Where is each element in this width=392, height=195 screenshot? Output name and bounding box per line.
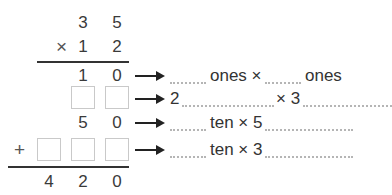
blank-answer-line[interactable] [303,105,392,107]
answer-box[interactable] [71,138,95,161]
blank-answer-line[interactable] [182,105,274,107]
partial-row3-tens-digit: 5 [73,113,93,133]
multiplicand-tens-digit: 3 [73,13,93,33]
blank-answer-line[interactable] [265,129,353,131]
answer-box[interactable] [71,86,95,109]
explanation-row2-text: × 3 [276,89,300,109]
partial-row1-ones-digit: 0 [107,66,127,86]
bottom-divider-line [8,166,129,168]
explanation-row1-text-a: ones × [210,66,262,86]
multiplier-ones-digit: 2 [107,37,127,57]
explanation-row3-text: ten × 5 [210,113,262,133]
plus-sign: + [14,140,25,160]
multiplier-tens-digit: 1 [73,37,93,57]
multiplicand-ones-digit: 5 [107,13,127,33]
arrow-right-icon [135,145,165,155]
sum-hundreds-digit: 4 [39,172,59,192]
sum-tens-digit: 2 [73,172,93,192]
blank-answer-line[interactable] [265,82,301,84]
answer-box[interactable] [105,86,129,109]
arrow-right-icon [135,118,165,128]
top-divider-line [37,61,129,63]
answer-box[interactable] [37,138,61,161]
arrow-right-icon [135,94,165,104]
blank-answer-line[interactable] [265,156,353,158]
blank-answer-line[interactable] [170,129,206,131]
partial-row1-tens-digit: 1 [73,66,93,86]
explanation-row4-text: ten × 3 [210,140,262,160]
answer-box[interactable] [105,138,129,161]
blank-answer-line[interactable] [170,82,206,84]
multiply-sign: × [56,37,67,57]
arrow-right-icon [135,71,165,81]
partial-row3-ones-digit: 0 [107,113,127,133]
sum-ones-digit: 0 [107,172,127,192]
explanation-row2-prefix: 2 [170,89,179,109]
explanation-row1-text-b: ones [305,66,342,86]
blank-answer-line[interactable] [170,156,206,158]
